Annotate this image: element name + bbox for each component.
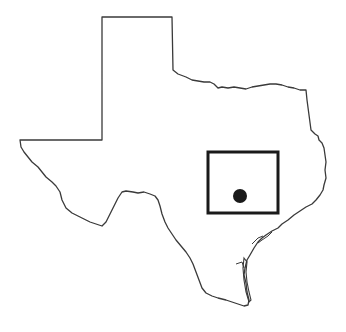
texas-state-outline: [20, 17, 326, 306]
location-marker: [233, 189, 247, 203]
texas-locator-map: [0, 0, 346, 332]
study-area-box: [208, 152, 278, 213]
coastal-barrier-island: [243, 258, 251, 302]
coastal-bay-detail: [236, 232, 272, 268]
